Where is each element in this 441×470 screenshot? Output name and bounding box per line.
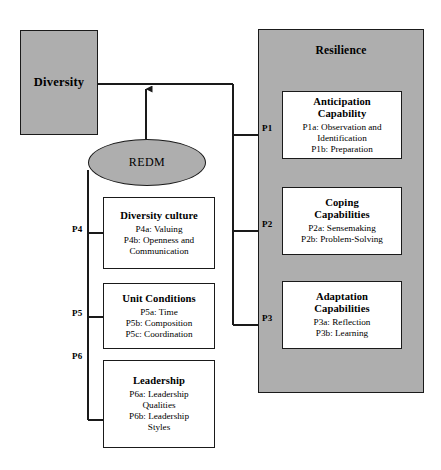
adaptation-capabilities-box: Adaptation Capabilities P3a: Reflection … (282, 281, 402, 349)
coping-title: Coping Capabilities (314, 197, 369, 221)
unit-conditions-title: Unit Conditions (122, 293, 196, 305)
proposition-p3b: P3b: Learning (314, 328, 371, 339)
proposition-p5b: P5b: Composition (125, 318, 192, 329)
proposition-p6a: P6a: Leadership (129, 389, 189, 400)
resilience-title: Resilience (259, 44, 423, 56)
coping-title-line2: Capabilities (314, 209, 369, 220)
edge-label-p4: P4 (72, 224, 82, 234)
proposition-p6b-cont: Styles (129, 422, 189, 433)
coping-capabilities-box: Coping Capabilities P2a: Sensemaking P2b… (282, 187, 402, 255)
redm-ellipse: REDM (88, 139, 206, 186)
proposition-p5c: P5c: Coordination (125, 329, 192, 340)
coping-propositions: P2a: Sensemaking P2b: Problem-Solving (301, 223, 383, 245)
anticipation-title: Anticipation Capability (313, 96, 371, 120)
anticipation-capability-box: Anticipation Capability P1a: Observation… (282, 91, 402, 159)
adaptation-propositions: P3a: Reflection P3b: Learning (314, 317, 371, 339)
edge-label-p1: P1 (262, 123, 272, 133)
proposition-p1a-cont: Identification (302, 133, 381, 144)
unit-conditions-propositions: P5a: Time P5b: Composition P5c: Coordina… (125, 307, 192, 340)
proposition-p3a: P3a: Reflection (314, 317, 371, 328)
edge-label-p2: P2 (262, 219, 272, 229)
leadership-propositions: P6a: Leadership Qualities P6b: Leadershi… (129, 389, 189, 433)
proposition-p6b: P6b: Leadership (129, 411, 189, 422)
diversity-culture-box: Diversity culture P4a: Valuing P4b: Open… (103, 197, 215, 269)
edge-label-p6: P6 (72, 351, 82, 361)
diversity-culture-propositions: P4a: Valuing P4b: Openness and Communica… (124, 224, 194, 257)
proposition-p1a: P1a: Observation and (302, 122, 381, 133)
proposition-p2b: P2b: Problem-Solving (301, 234, 383, 245)
adaptation-title: Adaptation Capabilities (314, 291, 369, 315)
edge-label-p3: P3 (262, 313, 272, 323)
anticipation-title-line2: Capability (318, 108, 367, 119)
framework-diagram: Diversity REDM Resilience Anticipation C… (0, 0, 441, 470)
anticipation-propositions: P1a: Observation and Identification P1b:… (302, 122, 381, 155)
diversity-label: Diversity (34, 75, 84, 90)
adaptation-title-line2: Capabilities (314, 303, 369, 314)
proposition-p4b: P4b: Openness and (124, 235, 194, 246)
proposition-p5a: P5a: Time (125, 307, 192, 318)
leadership-title: Leadership (133, 375, 185, 387)
edge-label-p5: P5 (72, 308, 82, 318)
unit-conditions-box: Unit Conditions P5a: Time P5b: Compositi… (103, 283, 215, 349)
redm-label: REDM (129, 155, 165, 170)
adaptation-title-line1: Adaptation (316, 291, 368, 302)
proposition-p4b-cont: Communication (124, 246, 194, 257)
proposition-p4a: P4a: Valuing (124, 224, 194, 235)
diversity-culture-title: Diversity culture (120, 210, 198, 222)
leadership-box: Leadership P6a: Leadership Qualities P6b… (103, 360, 215, 448)
coping-title-line1: Coping (325, 197, 359, 208)
proposition-p6a-cont: Qualities (129, 400, 189, 411)
proposition-p1b: P1b: Preparation (302, 144, 381, 155)
diversity-box: Diversity (20, 30, 98, 135)
proposition-p2a: P2a: Sensemaking (301, 223, 383, 234)
anticipation-title-line1: Anticipation (313, 96, 371, 107)
